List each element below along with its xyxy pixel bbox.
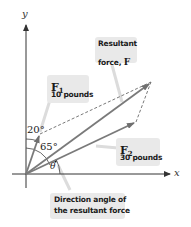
angle-arc-20 [26,139,38,141]
direction-angle-callout: Direction angle of the resultant force [50,193,125,219]
resultant-force-prefix: force, [98,58,124,67]
angle-label-theta: θ [50,161,55,171]
y-axis-label: y [22,8,28,20]
caption-line2: the resultant force [54,207,130,216]
resultant-callout: Resultant force, F [95,37,137,63]
resultant-leader-line [112,65,122,102]
resultant-label-line2: force, F [98,51,130,69]
f1-callout: F1 10 pounds [47,75,89,103]
angle-label-20: 20° [27,124,45,136]
resultant-label-line1: Resultant [98,40,137,49]
angle-label-65: 65° [40,141,58,153]
caption-line1: Direction angle of [54,196,126,205]
x-axis-label: x [174,167,180,179]
f2-leader-line [96,146,118,148]
force-diagram: y x Resultant force, F F1 10 pounds F2 3… [0,0,191,227]
f1-magnitude: 10 pounds [51,91,93,100]
resultant-symbol: F [124,57,130,67]
f2-callout: F2 30 pounds [116,138,160,166]
f2-magnitude: 30 pounds [120,154,162,163]
